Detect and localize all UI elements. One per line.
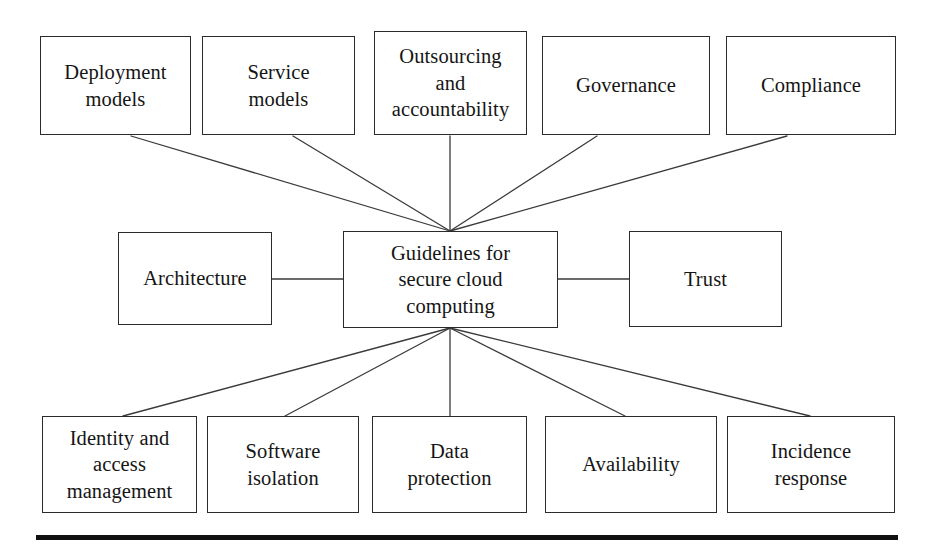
node-label: Service models	[241, 59, 315, 112]
node-center-guidelines-for-secure-cloud-computing[interactable]: Guidelines for secure cloud computing	[343, 231, 558, 328]
node-trust[interactable]: Trust	[629, 231, 782, 327]
node-label: Governance	[570, 72, 682, 99]
connector-compliance-to-center	[450, 136, 787, 231]
node-label: Software isolation	[240, 438, 327, 491]
node-label: Identity and access management	[61, 425, 179, 505]
node-label: Trust	[678, 266, 733, 293]
node-incidence-response[interactable]: Incidence response	[727, 416, 895, 513]
node-deployment-models[interactable]: Deployment models	[40, 36, 191, 135]
node-label: Incidence response	[765, 438, 858, 491]
node-governance[interactable]: Governance	[542, 36, 710, 135]
node-architecture[interactable]: Architecture	[118, 232, 272, 325]
node-outsourcing-and-accountability[interactable]: Outsourcing and accountability	[374, 31, 527, 135]
node-data-protection[interactable]: Data protection	[372, 416, 527, 513]
node-label: Outsourcing and accountability	[386, 43, 516, 123]
diagram-canvas: Deployment models Service models Outsour…	[0, 0, 940, 551]
node-label: Compliance	[755, 72, 867, 99]
node-label: Deployment models	[58, 59, 172, 112]
connector-deployment-models-to-center	[131, 136, 450, 231]
connector-center-to-identity-access-management	[123, 328, 450, 416]
node-software-isolation[interactable]: Software isolation	[207, 416, 359, 513]
node-label: Guidelines for secure cloud computing	[385, 240, 516, 320]
connector-service-models-to-center	[293, 136, 450, 231]
horizontal-rule	[36, 535, 898, 540]
node-identity-and-access-management[interactable]: Identity and access management	[42, 416, 197, 513]
node-compliance[interactable]: Compliance	[726, 36, 896, 135]
connector-governance-to-center	[450, 136, 597, 231]
node-service-models[interactable]: Service models	[202, 36, 355, 135]
node-label: Data protection	[401, 438, 497, 491]
node-label: Architecture	[137, 265, 253, 292]
node-label: Availability	[576, 451, 686, 478]
node-availability[interactable]: Availability	[545, 416, 717, 513]
connector-center-to-software-isolation	[285, 328, 450, 416]
connector-center-to-availability	[450, 328, 625, 416]
connector-center-to-incidence-response	[450, 328, 810, 416]
